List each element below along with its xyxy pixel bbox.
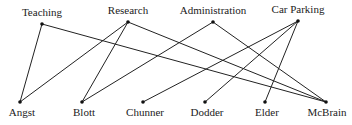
edge-car_parking-chunner bbox=[143, 21, 298, 102]
label-blott: Blott bbox=[73, 106, 95, 118]
label-elder: Elder bbox=[255, 106, 279, 118]
edge-car_parking-dodder bbox=[205, 21, 298, 102]
node-chunner bbox=[141, 100, 145, 104]
edge-administration-blott bbox=[82, 22, 213, 102]
label-dodder: Dodder bbox=[191, 106, 224, 118]
node-teaching bbox=[40, 22, 44, 26]
edge-teaching-angst bbox=[20, 24, 42, 102]
edge-research-blott bbox=[82, 22, 128, 102]
label-administration: Administration bbox=[180, 4, 247, 16]
node-mcbrain bbox=[324, 100, 328, 104]
edge-teaching-mcbrain bbox=[42, 24, 326, 102]
label-car-parking: Car Parking bbox=[272, 3, 325, 15]
node-dodder bbox=[203, 100, 207, 104]
node-elder bbox=[263, 100, 267, 104]
node-angst bbox=[18, 100, 22, 104]
label-teaching: Teaching bbox=[22, 6, 62, 18]
node-car_parking bbox=[296, 19, 300, 23]
node-research bbox=[126, 20, 130, 24]
label-research: Research bbox=[108, 4, 148, 16]
edge-research-mcbrain bbox=[128, 22, 326, 102]
edge-research-angst bbox=[20, 22, 128, 102]
edges bbox=[20, 21, 326, 102]
bipartite-graph bbox=[0, 0, 352, 125]
node-administration bbox=[211, 20, 215, 24]
label-chunner: Chunner bbox=[126, 106, 164, 118]
node-blott bbox=[80, 100, 84, 104]
label-mcbrain: McBrain bbox=[307, 106, 346, 118]
label-angst: Angst bbox=[9, 106, 35, 118]
